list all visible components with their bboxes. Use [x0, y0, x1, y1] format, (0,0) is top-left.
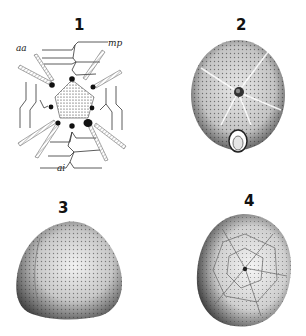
figure-3-lateral-view: [0, 180, 153, 336]
periproct-pentagon: [55, 80, 94, 118]
illustration-plate: 1 aa mp ai: [0, 0, 306, 336]
ambulacral-plates-left: [20, 82, 48, 128]
figure-4-aboral-view: [153, 180, 306, 336]
figure-1-apical-diagram: [0, 0, 153, 180]
ambulacral-plates-right: [100, 86, 122, 130]
apical-disc: [243, 267, 247, 271]
figure-2-oral-view: [153, 0, 306, 180]
